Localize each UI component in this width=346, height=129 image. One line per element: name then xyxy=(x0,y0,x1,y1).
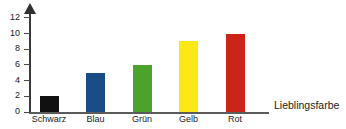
bar xyxy=(133,65,152,112)
bar xyxy=(86,73,105,112)
y-axis-tick-label: 8 xyxy=(4,44,20,53)
y-axis-tick xyxy=(24,49,30,50)
y-axis-tick xyxy=(24,80,30,81)
y-axis-tick-label: 4 xyxy=(4,76,20,85)
bar xyxy=(226,34,245,113)
plot-area: 024681012 SchwarzBlauGrünGelbRot Lieblin… xyxy=(0,0,346,129)
bar-chart: 024681012 SchwarzBlauGrünGelbRot Lieblin… xyxy=(0,0,346,129)
y-axis-tick-label: 12 xyxy=(4,13,20,22)
y-axis-tick-label: 2 xyxy=(4,91,20,100)
y-axis-tick xyxy=(24,64,30,65)
bar xyxy=(179,41,198,112)
bar xyxy=(40,96,59,112)
y-axis-tick xyxy=(24,96,30,97)
x-axis-title: Lieblingsfarbe xyxy=(274,99,339,111)
y-axis-tick-label: 0 xyxy=(4,107,20,116)
y-axis-tick xyxy=(24,33,30,34)
y-axis-arrow-icon xyxy=(24,3,36,14)
y-axis-tick xyxy=(24,17,30,18)
y-axis-tick-label: 10 xyxy=(4,29,20,38)
y-axis-line xyxy=(29,13,31,113)
x-axis-tick-label: Rot xyxy=(205,115,265,125)
y-axis-tick xyxy=(24,112,30,113)
y-axis-tick-label: 6 xyxy=(4,60,20,69)
